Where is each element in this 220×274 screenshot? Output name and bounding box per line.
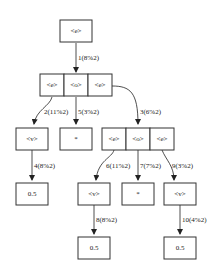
node-5-label: * xyxy=(74,135,78,143)
node-10: 0.5 xyxy=(164,237,196,259)
node-3: <e> <o> <e> xyxy=(102,128,174,150)
edge-label-7: 7(7%2) xyxy=(140,162,162,170)
edge-label-6: 6(11%2) xyxy=(106,162,131,170)
node-root: <e> xyxy=(60,20,92,42)
node-2: <v> xyxy=(16,128,48,150)
node-2-label: <v> xyxy=(26,135,37,143)
edge-label-10: 10(4%2) xyxy=(182,216,207,224)
node-1-cell-1: <o> xyxy=(70,81,81,89)
node-5: * xyxy=(60,128,92,150)
node-6: <v> xyxy=(78,183,110,205)
node-3-cell-1: <o> xyxy=(132,135,143,143)
edge-label-3: 3(6%2) xyxy=(140,108,162,116)
node-1-cell-2: <e> xyxy=(94,81,105,89)
node-8-label: 0.5 xyxy=(90,244,99,252)
node-root-label: <e> xyxy=(70,27,81,35)
node-10-label: 0.5 xyxy=(176,244,185,252)
node-9-label: <v> xyxy=(174,190,185,198)
node-8: 0.5 xyxy=(78,237,110,259)
node-4-label: 0.5 xyxy=(28,190,37,198)
node-7-label: * xyxy=(136,190,140,198)
node-3-cell-2: <e> xyxy=(156,135,167,143)
edge-label-9: 9(3%2) xyxy=(172,162,194,170)
node-6-label: <v> xyxy=(88,190,99,198)
node-1-cell-0: <e> xyxy=(46,81,57,89)
edge-label-2: 2(11%2) xyxy=(44,108,69,116)
node-4: 0.5 xyxy=(16,183,48,205)
edge-label-1: 1(8%2) xyxy=(78,54,100,62)
edge-label-5: 5(3%2) xyxy=(78,108,100,116)
node-7: * xyxy=(122,183,154,205)
node-9: <v> xyxy=(164,183,196,205)
edge-label-4: 4(8%2) xyxy=(34,162,56,170)
node-3-cell-0: <e> xyxy=(108,135,119,143)
node-1: <e> <o> <e> xyxy=(40,74,112,96)
derivation-tree: 1(8%2) 2(11%2) 5(3%2) 3(6%2) 4(8%2) 6(11… xyxy=(0,0,220,274)
edge-label-8: 8(8%2) xyxy=(96,216,118,224)
edge-3 xyxy=(112,86,138,124)
